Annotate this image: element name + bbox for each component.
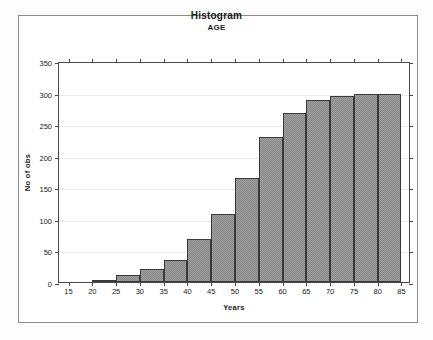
x-tick-label-55: 55 — [255, 287, 263, 296]
y-tick-right-150 — [409, 189, 413, 190]
x-tick-label-75: 75 — [350, 287, 358, 296]
histogram-bar — [354, 94, 378, 282]
x-tick-label-80: 80 — [374, 287, 382, 296]
x-tick-30 — [140, 282, 141, 286]
x-tick-top-55 — [259, 59, 260, 63]
y-axis-title-label: No of obs — [24, 154, 33, 191]
x-tick-top-45 — [211, 59, 212, 63]
x-tick-55 — [259, 282, 260, 286]
x-tick-20 — [92, 282, 93, 286]
y-tick-right-0 — [409, 284, 413, 285]
x-tick-label-50: 50 — [231, 287, 239, 296]
x-tick-80 — [378, 282, 379, 286]
x-tick-70 — [330, 282, 331, 286]
y-tick-label-300: 300 — [39, 90, 52, 99]
histogram-bar — [211, 214, 235, 282]
x-tick-label-35: 35 — [159, 287, 167, 296]
x-tick-top-30 — [140, 59, 141, 63]
y-tick-right-350 — [409, 63, 413, 64]
y-tick-right-250 — [409, 126, 413, 127]
x-tick-top-20 — [92, 59, 93, 63]
x-tick-25 — [116, 282, 117, 286]
x-tick-45 — [211, 282, 212, 286]
x-tick-60 — [283, 282, 284, 286]
page-title: Histogram — [0, 10, 433, 22]
x-tick-50 — [235, 282, 236, 286]
histogram-bar — [140, 269, 164, 282]
x-tick-top-35 — [164, 59, 165, 63]
histogram-bar — [116, 275, 140, 282]
y-axis-title: No of obs — [22, 62, 34, 283]
y-tick-right-50 — [409, 252, 413, 253]
figure-canvas: Histogram AGE No of obs 0501001502002503… — [0, 0, 433, 340]
x-tick-label-70: 70 — [326, 287, 334, 296]
x-tick-label-25: 25 — [112, 287, 120, 296]
x-tick-35 — [164, 282, 165, 286]
x-tick-top-75 — [354, 59, 355, 63]
y-tick-250 — [55, 126, 59, 127]
x-tick-top-60 — [283, 59, 284, 63]
x-tick-40 — [187, 282, 188, 286]
plot-area: 050100150200250300350 152025303540455055… — [58, 62, 410, 283]
x-tick-top-15 — [69, 59, 70, 63]
y-tick-150 — [55, 189, 59, 190]
x-tick-top-50 — [235, 59, 236, 63]
y-tick-0 — [55, 284, 59, 285]
histogram-bar — [235, 178, 259, 282]
y-tick-label-350: 350 — [39, 59, 52, 68]
x-tick-label-45: 45 — [207, 287, 215, 296]
y-tick-label-150: 150 — [39, 185, 52, 194]
chart-subtitle: AGE — [0, 22, 433, 33]
x-tick-label-15: 15 — [64, 287, 72, 296]
histogram-bar — [164, 260, 188, 282]
x-tick-top-80 — [378, 59, 379, 63]
y-tick-right-300 — [409, 95, 413, 96]
y-tick-label-0: 0 — [48, 280, 52, 289]
x-tick-top-25 — [116, 59, 117, 63]
x-tick-top-70 — [330, 59, 331, 63]
x-tick-85 — [401, 282, 402, 286]
y-tick-right-200 — [409, 158, 413, 159]
x-tick-top-85 — [401, 59, 402, 63]
y-tick-label-100: 100 — [39, 216, 52, 225]
y-tick-200 — [55, 158, 59, 159]
x-axis-title: Years — [58, 303, 410, 312]
x-tick-75 — [354, 282, 355, 286]
y-tick-label-200: 200 — [39, 153, 52, 162]
x-tick-label-30: 30 — [136, 287, 144, 296]
histogram-bar — [378, 94, 402, 282]
x-tick-top-65 — [306, 59, 307, 63]
histogram-bar — [306, 100, 330, 282]
x-tick-top-40 — [187, 59, 188, 63]
x-tick-label-40: 40 — [183, 287, 191, 296]
y-tick-300 — [55, 95, 59, 96]
x-tick-label-65: 65 — [302, 287, 310, 296]
histogram-bar — [283, 113, 307, 282]
y-tick-100 — [55, 221, 59, 222]
histogram-bar — [92, 280, 116, 282]
x-tick-65 — [306, 282, 307, 286]
histogram-bar — [259, 137, 283, 282]
y-tick-50 — [55, 252, 59, 253]
y-tick-label-250: 250 — [39, 122, 52, 131]
title-block: Histogram AGE — [0, 10, 433, 33]
histogram-bar — [187, 239, 211, 282]
y-tick-right-100 — [409, 221, 413, 222]
x-tick-label-85: 85 — [397, 287, 405, 296]
x-tick-15 — [69, 282, 70, 286]
y-tick-350 — [55, 63, 59, 64]
x-tick-label-60: 60 — [278, 287, 286, 296]
x-tick-label-20: 20 — [88, 287, 96, 296]
y-tick-label-50: 50 — [44, 248, 52, 257]
histogram-bar — [330, 96, 354, 282]
